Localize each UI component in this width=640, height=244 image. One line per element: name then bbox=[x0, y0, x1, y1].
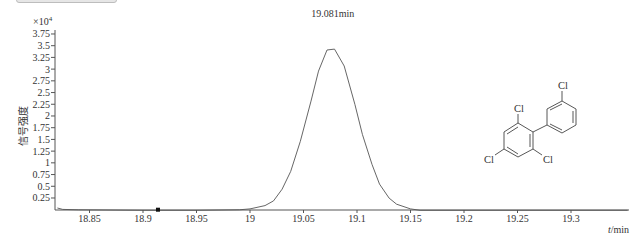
chromatogram-trace bbox=[57, 49, 627, 210]
x-axis-label: t/min bbox=[608, 224, 629, 235]
biphenyl-bond bbox=[533, 125, 547, 132]
x-tick-label: 19.1 bbox=[348, 213, 366, 224]
y-tick-label: 0.75 bbox=[33, 169, 51, 180]
x-tick-label: 18.9 bbox=[134, 213, 152, 224]
y-tick-label: 1.75 bbox=[33, 122, 51, 133]
trichlorophenyl-ring bbox=[504, 123, 533, 157]
y-axis-ticks: 0.250.50.7511.251.51.7522.252.52.7533.25… bbox=[33, 28, 56, 203]
y-tick-label: 2 bbox=[45, 110, 50, 121]
axes bbox=[55, 30, 629, 210]
y-tick-label: 2.75 bbox=[33, 75, 51, 86]
baseline-marker bbox=[156, 208, 160, 212]
y-axis-label: 信号强度 bbox=[17, 106, 29, 146]
x-tick-label: 19.2 bbox=[455, 213, 473, 224]
y-tick-label: 3 bbox=[45, 64, 50, 75]
molecule-structure: Cl Cl Cl Cl bbox=[484, 80, 576, 165]
cl-bond-right bbox=[533, 149, 542, 155]
y-tick-label: 0.5 bbox=[38, 181, 51, 192]
chlorine-label-top: Cl bbox=[514, 103, 524, 114]
y-tick-label: 0.25 bbox=[33, 192, 51, 203]
chlorophenyl-ring bbox=[547, 101, 576, 133]
y-tick-label: 3.75 bbox=[33, 28, 51, 39]
x-tick-label: 18.85 bbox=[78, 213, 101, 224]
x-tick-label: 19.15 bbox=[399, 213, 422, 224]
y-tick-label: 2.5 bbox=[38, 87, 51, 98]
chlorine-label-right: Cl bbox=[543, 154, 553, 165]
x-tick-label: 18.95 bbox=[185, 213, 208, 224]
y-tick-label: 1 bbox=[45, 157, 50, 168]
y-tick-label: 3.5 bbox=[38, 40, 51, 51]
y-axis-multiplier: ×104 bbox=[33, 15, 53, 27]
x-tick-label: 19.3 bbox=[562, 213, 580, 224]
x-tick-label: 19.25 bbox=[506, 213, 529, 224]
y-tick-label: 1.25 bbox=[33, 146, 51, 157]
svg-text:信号强度: 信号强度 bbox=[17, 106, 29, 146]
chlorine-label-left: Cl bbox=[484, 154, 494, 165]
chromatogram-chart: 信号强度 ×104 0.250.50.7511.251.51.7522.252.… bbox=[0, 0, 640, 244]
x-axis-ticks: 18.8518.918.951919.0519.119.1519.219.251… bbox=[78, 210, 580, 224]
cl-bond-left bbox=[495, 149, 504, 155]
x-tick-label: 19 bbox=[245, 213, 255, 224]
y-tick-label: 1.5 bbox=[38, 134, 51, 145]
y-tick-label: 2.25 bbox=[33, 99, 51, 110]
peak-retention-label: 19.081min bbox=[311, 8, 354, 19]
y-tick-label: 3.25 bbox=[33, 52, 51, 63]
x-tick-label: 19.05 bbox=[292, 213, 315, 224]
chlorine-label-upper: Cl bbox=[558, 80, 568, 91]
